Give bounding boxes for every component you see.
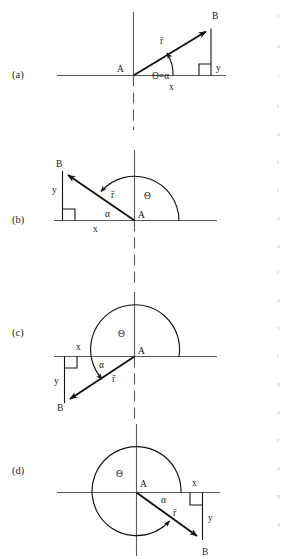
panel-d-alpha-label: α bbox=[161, 495, 166, 505]
panel-a-vector-label: r̄ bbox=[160, 36, 164, 46]
panel-a-point-b-label: B bbox=[212, 11, 218, 21]
panel-b-x-label: x bbox=[93, 224, 98, 234]
panel-b-label: (b) bbox=[12, 214, 25, 226]
panel-d-x-label: x bbox=[192, 478, 197, 488]
panel-b-vector-label: r̄ bbox=[111, 190, 115, 200]
panel-a: (a) A B r̄ Θ=α x y bbox=[12, 11, 226, 130]
panel-b-theta-label: Θ bbox=[144, 191, 151, 201]
panel-b-point-a-label: A bbox=[138, 210, 145, 220]
panel-c-point-b-label: B bbox=[57, 403, 63, 413]
four-quadrant-vector-figure: (a) A B r̄ Θ=α x y (b) bbox=[0, 0, 290, 559]
panel-d-y-label: y bbox=[208, 513, 213, 523]
panel-c-theta-label: Θ bbox=[118, 329, 125, 339]
panel-a-angle-label: Θ=α bbox=[152, 71, 169, 81]
panel-a-vector-r bbox=[134, 32, 207, 76]
panel-d-point-b-label: B bbox=[202, 547, 208, 557]
panel-c: (c) A B r̄ α Θ x y bbox=[12, 292, 217, 424]
panel-a-y-label: y bbox=[216, 63, 221, 73]
panel-d-vector-label: r̄ bbox=[173, 508, 177, 518]
panel-b-alpha-label: α bbox=[105, 209, 110, 219]
figure-root: (a) A B r̄ Θ=α x y (b) bbox=[0, 0, 290, 559]
panel-b-vector-r bbox=[68, 175, 135, 221]
panel-c-alpha-label: α bbox=[99, 360, 104, 370]
panel-c-y-label: y bbox=[54, 376, 59, 386]
panel-b: (b) A B r̄ α Θ x y bbox=[12, 150, 217, 288]
panel-d-label: (d) bbox=[12, 465, 25, 477]
panel-c-label: (c) bbox=[12, 327, 24, 339]
panel-c-vector-label: r̄ bbox=[112, 374, 116, 384]
panel-a-point-a-label: A bbox=[117, 64, 124, 74]
panel-c-right-angle bbox=[65, 357, 78, 369]
panel-b-point-b-label: B bbox=[56, 159, 62, 169]
panel-b-y-label: y bbox=[52, 185, 57, 195]
panel-c-point-a-label: A bbox=[138, 346, 145, 356]
panel-b-right-angle bbox=[63, 209, 76, 221]
panel-d-point-a-label: A bbox=[140, 479, 147, 489]
panel-c-x-label: x bbox=[76, 342, 81, 352]
panel-d-theta-label: Θ bbox=[116, 469, 123, 479]
panel-d: (d) A B r̄ α Θ x y bbox=[12, 424, 220, 557]
panel-d-vector-r bbox=[137, 493, 198, 537]
panel-d-right-angle bbox=[190, 493, 203, 506]
panel-a-label: (a) bbox=[12, 69, 24, 81]
panel-a-right-angle bbox=[199, 64, 211, 76]
panel-a-x-label: x bbox=[169, 82, 174, 92]
